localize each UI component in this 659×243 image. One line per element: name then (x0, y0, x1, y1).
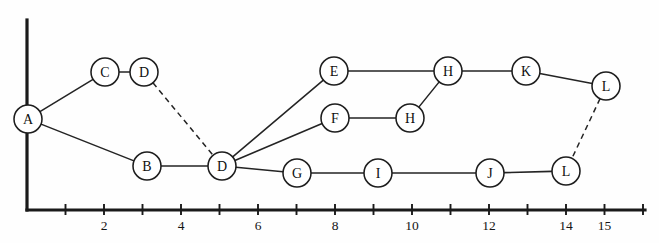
edge-h2-h1 (419, 82, 439, 107)
network-diagram-svg: 246810121415 ACDBDEFGHHIKJLL (0, 0, 659, 243)
node-circle (512, 57, 540, 85)
node-f[interactable]: F (321, 104, 349, 132)
axis-tick-label: 2 (101, 218, 108, 233)
edge-a-c (40, 79, 93, 111)
edge-d2-g (236, 167, 283, 171)
node-circle (364, 159, 392, 187)
axis-tick-label: 4 (178, 218, 185, 233)
node-i[interactable]: I (364, 159, 392, 187)
axis-tick-label: 12 (482, 218, 496, 233)
node-k[interactable]: K (512, 57, 540, 85)
node-circle (14, 105, 42, 133)
node-circle (476, 159, 504, 187)
node-b[interactable]: B (133, 152, 161, 180)
edge-d1-d2 (153, 83, 213, 155)
node-j[interactable]: J (476, 159, 504, 187)
node-h2[interactable]: H (396, 104, 424, 132)
node-circle (320, 57, 348, 85)
node-circle (130, 58, 158, 86)
edge-k-l1 (540, 74, 592, 84)
node-e[interactable]: E (320, 57, 348, 85)
axis-tick-label: 6 (255, 218, 262, 233)
edge-d2-e (233, 80, 324, 157)
edge-l1-l2 (572, 99, 600, 159)
diagram-canvas: 246810121415 ACDBDEFGHHIKJLL (0, 0, 659, 243)
node-circle (133, 152, 161, 180)
node-circle (321, 104, 349, 132)
edges-group (40, 71, 600, 173)
nodes-group: ACDBDEFGHHIKJLL (14, 57, 620, 187)
node-circle (434, 57, 462, 85)
node-l1[interactable]: L (592, 72, 620, 100)
axis-tick-label: 15 (598, 218, 612, 233)
node-l2[interactable]: L (552, 157, 580, 185)
node-a[interactable]: A (14, 105, 42, 133)
edge-j-l2 (504, 171, 552, 172)
axis-tick-label: 10 (405, 218, 419, 233)
node-d2[interactable]: D (208, 152, 236, 180)
node-circle (592, 72, 620, 100)
node-circle (91, 58, 119, 86)
node-circle (552, 157, 580, 185)
axis-tick-label: 8 (332, 218, 339, 233)
node-circle (396, 104, 424, 132)
node-d1[interactable]: D (130, 58, 158, 86)
node-circle (283, 159, 311, 187)
node-g[interactable]: G (283, 159, 311, 187)
axis-tick-labels-group: 246810121415 (101, 218, 612, 233)
node-h1[interactable]: H (434, 57, 462, 85)
node-circle (208, 152, 236, 180)
edge-d2-f (235, 123, 322, 160)
edge-a-b (41, 124, 134, 161)
node-c[interactable]: C (91, 58, 119, 86)
axis-tick-label: 14 (559, 218, 573, 233)
